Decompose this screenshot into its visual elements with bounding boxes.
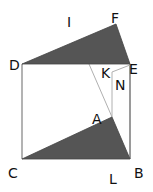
label-L: L xyxy=(109,171,117,187)
triangle-CAB xyxy=(22,117,130,159)
label-K: K xyxy=(101,65,111,81)
label-C: C xyxy=(8,165,18,181)
label-F: F xyxy=(111,10,119,26)
label-N: N xyxy=(115,77,125,93)
label-D: D xyxy=(9,57,20,73)
triangle-DFE xyxy=(22,24,130,64)
label-B: B xyxy=(134,165,144,181)
line-KE xyxy=(112,65,130,72)
geometry-diagram: I F D K E N A C L B xyxy=(0,0,153,192)
label-E: E xyxy=(129,61,138,77)
label-A: A xyxy=(92,111,102,127)
label-I: I xyxy=(67,14,71,30)
